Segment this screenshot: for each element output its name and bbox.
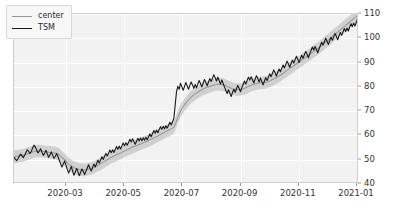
y-tick-mark xyxy=(358,37,361,38)
legend-swatch-center-icon xyxy=(12,16,32,17)
y-tick-label: 40 xyxy=(364,178,375,188)
x-tick-label: 2020-05 xyxy=(105,188,141,198)
legend-swatch-tsm-icon xyxy=(12,28,32,29)
y-tick-mark xyxy=(358,85,361,86)
y-tick-label: 80 xyxy=(364,81,375,91)
y-tick-mark xyxy=(358,13,361,14)
y-tick-mark xyxy=(358,183,361,184)
x-tick-label: 2020-07 xyxy=(164,188,200,198)
legend-item-tsm: TSM xyxy=(12,22,64,34)
y-tick-mark xyxy=(358,110,361,111)
y-tick-mark xyxy=(358,134,361,135)
tsm-line xyxy=(14,16,358,176)
y-tick-label: 50 xyxy=(364,154,375,164)
plot-svg xyxy=(14,14,358,183)
x-tick-mark xyxy=(181,183,182,186)
y-tick-mark xyxy=(358,158,361,159)
chart-legend: center TSM xyxy=(6,5,72,39)
x-tick-label: 2021-01 xyxy=(338,188,374,198)
y-tick-mark xyxy=(358,61,361,62)
x-tick-mark xyxy=(240,183,241,186)
x-tick-mark xyxy=(123,183,124,186)
x-tick-mark xyxy=(356,183,357,186)
legend-label-center: center xyxy=(38,12,64,20)
x-tick-label: 2020-09 xyxy=(222,188,258,198)
x-tick-label: 2020-03 xyxy=(47,188,83,198)
y-tick-label: 110 xyxy=(364,8,380,18)
y-tick-label: 100 xyxy=(364,32,380,42)
x-tick-mark xyxy=(298,183,299,186)
y-tick-label: 90 xyxy=(364,57,375,67)
chart-figure: center TSM 4050607080901001102020-032020… xyxy=(0,0,404,221)
legend-label-tsm: TSM xyxy=(38,24,55,32)
x-tick-label: 2020-11 xyxy=(280,188,316,198)
x-tick-mark xyxy=(65,183,66,186)
legend-item-center: center xyxy=(12,10,64,22)
y-tick-label: 70 xyxy=(364,105,375,115)
y-tick-label: 60 xyxy=(364,129,375,139)
